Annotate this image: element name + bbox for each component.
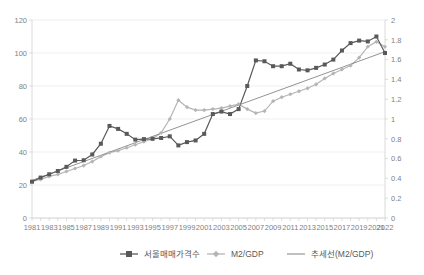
- data-point-seoul-price-index: [125, 132, 129, 136]
- data-point-seoul-price-index: [82, 158, 86, 162]
- data-point-seoul-price-index: [228, 112, 232, 116]
- data-point-seoul-price-index: [133, 138, 137, 142]
- data-point-seoul-price-index: [194, 138, 198, 142]
- data-point-seoul-price-index: [383, 51, 387, 55]
- data-point-seoul-price-index: [271, 64, 275, 68]
- y-axis-right-tick-label: 0.6: [391, 154, 401, 163]
- x-axis-tick-label: 2017: [334, 223, 351, 232]
- data-point-seoul-price-index: [47, 172, 51, 176]
- data-point-m2-gdp: [193, 108, 197, 112]
- data-point-seoul-price-index: [349, 41, 353, 45]
- x-axis-tick-label: 2005: [230, 223, 247, 232]
- legend-label: 추세선(M2/GDP): [311, 249, 373, 259]
- data-point-seoul-price-index: [331, 58, 335, 62]
- y-axis-right-tick-label: 0.4: [391, 174, 401, 183]
- data-point-seoul-price-index: [107, 124, 111, 128]
- x-axis-tick-label: 1989: [93, 223, 110, 232]
- data-point-seoul-price-index: [90, 152, 94, 156]
- legend-marker-diamond: [213, 251, 219, 257]
- chart-container: 02040608010012000.20.40.60.811.21.41.61.…: [0, 0, 424, 275]
- data-point-seoul-price-index: [30, 180, 34, 184]
- chart-plot-area: 02040608010012000.20.40.60.811.21.41.61.…: [0, 0, 424, 275]
- y-axis-right-tick-label: 1.2: [391, 95, 401, 104]
- data-point-m2-gdp: [73, 166, 77, 170]
- x-axis-tick-label: 1995: [144, 223, 161, 232]
- y-axis-right-tick-label: 0.8: [391, 135, 401, 144]
- data-point-seoul-price-index: [159, 136, 163, 140]
- data-point-m2-gdp: [64, 169, 68, 173]
- data-point-seoul-price-index: [168, 134, 172, 138]
- y-axis-left-tick-label: 120: [14, 16, 27, 25]
- data-point-seoul-price-index: [306, 68, 310, 72]
- x-axis-tick-label: 2015: [316, 223, 333, 232]
- data-point-seoul-price-index: [237, 107, 241, 111]
- data-point-seoul-price-index: [211, 112, 215, 116]
- data-point-seoul-price-index: [245, 84, 249, 88]
- y-axis-right-tick-label: 1.4: [391, 75, 401, 84]
- x-axis-tick-label: 1997: [161, 223, 178, 232]
- data-point-m2-gdp: [202, 108, 206, 112]
- y-axis-right-tick-label: 1.8: [391, 36, 401, 45]
- data-point-seoul-price-index: [151, 137, 155, 141]
- data-point-m2-gdp: [254, 111, 258, 115]
- data-point-m2-gdp: [297, 89, 301, 93]
- x-axis-tick-label: 1991: [110, 223, 127, 232]
- x-axis-tick-label: 2009: [265, 223, 282, 232]
- data-point-seoul-price-index: [374, 35, 378, 39]
- x-axis-tick-label: 1987: [75, 223, 92, 232]
- data-point-seoul-price-index: [219, 110, 223, 114]
- data-point-seoul-price-index: [280, 64, 284, 68]
- data-point-seoul-price-index: [64, 165, 68, 169]
- y-axis-left-tick-label: 40: [19, 148, 27, 157]
- data-point-seoul-price-index: [323, 63, 327, 67]
- data-point-seoul-price-index: [176, 143, 180, 147]
- x-axis-tick-label: 2003: [213, 223, 230, 232]
- data-point-seoul-price-index: [73, 159, 77, 163]
- data-point-m2-gdp: [305, 86, 309, 90]
- data-point-m2-gdp: [211, 107, 215, 111]
- y-axis-left-tick-label: 80: [19, 82, 27, 91]
- legend-label: M2/GDP: [231, 249, 264, 259]
- y-axis-right-tick-label: 0.2: [391, 194, 401, 203]
- data-point-seoul-price-index: [142, 137, 146, 141]
- y-axis-right-tick-label: 1: [391, 115, 395, 124]
- x-axis-tick-label: 1993: [127, 223, 144, 232]
- x-axis-tick-label: 1999: [179, 223, 196, 232]
- data-point-seoul-price-index: [99, 142, 103, 146]
- legend-item[interactable]: 서울매매가격수: [120, 249, 200, 259]
- data-point-seoul-price-index: [202, 132, 206, 136]
- legend-item[interactable]: M2/GDP: [207, 249, 264, 259]
- x-axis-tick-label: 1981: [24, 223, 41, 232]
- data-point-seoul-price-index: [340, 49, 344, 53]
- y-axis-left-tick-label: 20: [19, 181, 27, 190]
- data-point-seoul-price-index: [262, 59, 266, 63]
- x-axis-tick-label: 2001: [196, 223, 213, 232]
- y-axis-left-tick-label: 0: [23, 214, 27, 223]
- data-point-seoul-price-index: [116, 127, 120, 131]
- y-axis-right-tick-label: 2: [391, 16, 395, 25]
- data-point-seoul-price-index: [297, 68, 301, 72]
- x-axis-tick-label: 2019: [351, 223, 368, 232]
- data-point-m2-gdp: [280, 95, 284, 99]
- legend-marker-square: [126, 251, 132, 257]
- data-point-seoul-price-index: [288, 62, 292, 66]
- y-axis-right-tick-label: 0: [391, 214, 395, 223]
- y-axis-right-tick-label: 1.6: [391, 55, 401, 64]
- data-point-seoul-price-index: [254, 58, 258, 62]
- data-point-seoul-price-index: [56, 169, 60, 173]
- data-point-seoul-price-index: [314, 66, 318, 70]
- data-point-seoul-price-index: [39, 176, 43, 180]
- y-axis-left-tick-label: 100: [14, 49, 27, 58]
- legend-label: 서울매매가격수: [144, 249, 200, 259]
- x-axis-tick-label: 1985: [58, 223, 75, 232]
- data-point-seoul-price-index: [366, 39, 370, 43]
- x-axis-tick-label: 2007: [248, 223, 265, 232]
- x-axis-tick-label: 2011: [282, 223, 298, 232]
- y-axis-left-tick-label: 60: [19, 115, 27, 124]
- x-axis-tick-label: 2013: [299, 223, 316, 232]
- x-axis-tick-label: 1983: [41, 223, 58, 232]
- x-axis-tick-label: 2022: [377, 223, 394, 232]
- data-point-seoul-price-index: [357, 39, 361, 43]
- data-point-m2-gdp: [288, 92, 292, 96]
- legend-item[interactable]: 추세선(M2/GDP): [287, 249, 373, 259]
